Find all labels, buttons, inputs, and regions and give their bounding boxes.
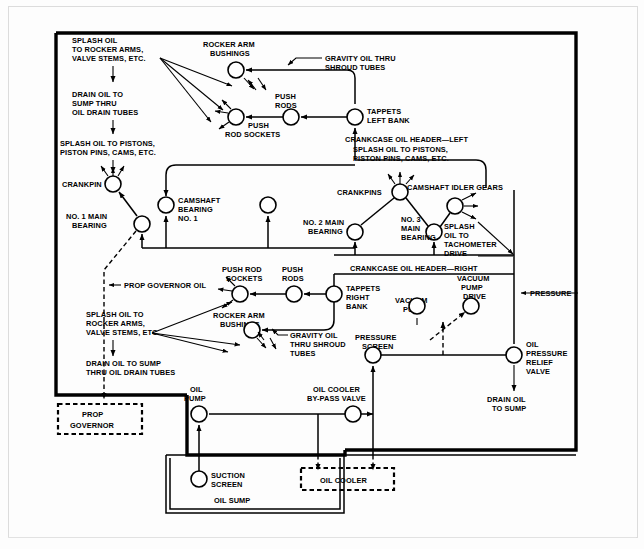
- svg-text:TUBES: TUBES: [290, 349, 316, 358]
- label-drain-oil-to-sump: DRAIN OIL TO SUMP: [487, 395, 526, 413]
- label-crankcase-header-left: CRANKCASE OIL HEADER—LEFT: [345, 135, 468, 144]
- node-rocker-arm-bushings-low: [244, 322, 260, 338]
- label-oil-sump: OIL SUMP: [214, 496, 250, 505]
- node-push-rod-sockets-mid: [232, 286, 248, 302]
- node-rocker-arm-bushings-top: [228, 62, 244, 78]
- svg-text:NO. 1: NO. 1: [178, 214, 198, 223]
- svg-text:NO. 3: NO. 3: [401, 215, 421, 224]
- svg-text:RIGHT: RIGHT: [346, 293, 370, 302]
- pipe-to-camshaft-bearing-1: [166, 165, 176, 196]
- svg-text:RELIEF: RELIEF: [526, 358, 553, 367]
- svg-text:ROD SOCKETS: ROD SOCKETS: [225, 130, 280, 139]
- flow-main2-to-crankpins: [361, 198, 394, 225]
- svg-text:OIL: OIL: [190, 385, 203, 394]
- node-camshaft-bearing-no1: [158, 197, 174, 213]
- label-no1-main-bearing: NO. 1 MAIN BEARING: [66, 212, 107, 230]
- leader-tach-diagonal: [478, 222, 513, 254]
- node-tappets-right-bank: [326, 286, 342, 302]
- svg-text:PUSH: PUSH: [248, 121, 269, 130]
- svg-text:ROCKER ARM: ROCKER ARM: [203, 40, 255, 49]
- label-splash-oil-tachometer: SPLASH OIL TO TACHOMETER DRIVE: [444, 222, 497, 258]
- svg-text:ROCKER ARMS,: ROCKER ARMS,: [86, 319, 145, 328]
- splash-socket-top-a: [222, 100, 231, 109]
- node-oil-cooler-bypass-valve: [345, 406, 361, 422]
- label-vacuum-pump-drive: VACUUM PUMP DRIVE: [457, 274, 490, 301]
- label-oil-cooler-bypass-valve: OIL COOLER BY-PASS VALVE: [307, 385, 366, 403]
- svg-text:SPLASH OIL TO PISTONS,: SPLASH OIL TO PISTONS,: [353, 145, 448, 154]
- svg-text:SPLASH OIL: SPLASH OIL: [72, 36, 118, 45]
- label-splash-oil-pistons-left: SPLASH OIL TO PISTONS, PISTON PINS, CAMS…: [60, 139, 156, 157]
- svg-text:NO. 1 MAIN: NO. 1 MAIN: [66, 212, 107, 221]
- node-header-riser-left: [260, 197, 276, 213]
- splash-bushing-top-a: [244, 78, 254, 89]
- label-prop-governor-oil: PROP GOVERNOR OIL: [124, 281, 206, 290]
- leader-gravity-oil-top: [288, 58, 322, 65]
- svg-text:VALVE: VALVE: [526, 367, 550, 376]
- svg-text:PRESSURE: PRESSURE: [526, 349, 567, 358]
- label-oil-cooler: OIL COOLER: [320, 476, 367, 485]
- svg-text:PRESSURE: PRESSURE: [355, 333, 396, 342]
- svg-text:DRAIN OIL TO: DRAIN OIL TO: [72, 90, 123, 99]
- node-vacuum-pump: [409, 298, 425, 314]
- label-oil-pump: OIL PUMP: [184, 385, 206, 403]
- svg-text:PUSH: PUSH: [282, 265, 303, 274]
- label-suction-screen: SUCTION SCREEN: [211, 471, 245, 489]
- label-prop-governor: PROP GOVERNOR: [70, 410, 114, 430]
- svg-text:BUSHINGS: BUSHINGS: [210, 49, 250, 58]
- splash-crankpins-a: [388, 174, 395, 184]
- flow-tappets-to-bushings-low: [262, 302, 334, 330]
- svg-text:DRIVE: DRIVE: [444, 249, 467, 258]
- svg-text:VALVE STEMS, ETC.: VALVE STEMS, ETC.: [86, 328, 160, 337]
- label-splash-oil-rocker-left: SPLASH OIL TO ROCKER ARMS, VALVE STEMS, …: [72, 36, 146, 63]
- label-push-rods-top: PUSH RODS: [275, 92, 297, 110]
- label-crankpin: CRANKPIN: [62, 180, 102, 189]
- svg-text:SPLASH OIL TO: SPLASH OIL TO: [86, 310, 144, 319]
- splash-socket-top-b: [215, 111, 228, 113]
- node-crankpin: [105, 176, 121, 192]
- splash-bushing-top-c: [258, 78, 266, 90]
- svg-text:NO. 2 MAIN: NO. 2 MAIN: [303, 218, 344, 227]
- lubrication-system-diagram: SPLASH OIL TO ROCKER ARMS, VALVE STEMS, …: [0, 0, 644, 549]
- svg-text:SUMP THRU: SUMP THRU: [72, 99, 117, 108]
- splash-bushing-low-b: [258, 332, 264, 340]
- label-crankcase-header-right: CRANKCASE OIL HEADER—RIGHT: [350, 264, 478, 273]
- label-splash-oil-rocker-low: SPLASH OIL TO ROCKER ARMS, VALVE STEMS, …: [86, 310, 160, 337]
- svg-text:TAPPETS: TAPPETS: [346, 284, 380, 293]
- svg-text:PISTON PINS, CAMS, ETC.: PISTON PINS, CAMS, ETC.: [60, 148, 156, 157]
- svg-text:RODS: RODS: [282, 274, 304, 283]
- label-camshaft-bearing-no1: CAMSHAFT BEARING NO. 1: [178, 196, 221, 223]
- node-crankpins: [392, 184, 408, 200]
- svg-text:OIL COOLER: OIL COOLER: [313, 385, 360, 394]
- label-rocker-arm-bushings-top: ROCKER ARM BUSHINGS: [203, 40, 255, 58]
- pointer-splash-to-sockets-a: [160, 58, 223, 110]
- svg-text:CAMSHAFT: CAMSHAFT: [178, 196, 221, 205]
- svg-text:SUCTION: SUCTION: [211, 471, 245, 480]
- svg-text:BANK: BANK: [346, 302, 368, 311]
- splash-bushing-low-a: [257, 338, 266, 348]
- node-vacuum-pump-drive: [463, 298, 479, 314]
- splash-bushing-low-c: [270, 338, 276, 349]
- svg-text:LEFT BANK: LEFT BANK: [367, 116, 410, 125]
- svg-text:PISTON PINS, CAMS, ETC.: PISTON PINS, CAMS, ETC.: [353, 154, 449, 163]
- svg-text:BEARING: BEARING: [308, 227, 343, 236]
- svg-text:GOVERNOR: GOVERNOR: [70, 421, 114, 430]
- node-suction-screen: [191, 471, 207, 487]
- line-vacuum-pump-drive: [430, 312, 465, 340]
- label-tappets-left-bank: TAPPETS LEFT BANK: [367, 107, 410, 125]
- splash-bushing-top-b: [248, 80, 256, 90]
- node-oil-pump: [191, 406, 207, 422]
- svg-text:BEARING: BEARING: [401, 233, 436, 242]
- svg-text:BEARING: BEARING: [178, 205, 213, 214]
- splash-socket-top-c: [219, 122, 229, 129]
- flow-tappets-to-bushings-left: [246, 70, 355, 104]
- svg-text:PUMP: PUMP: [461, 283, 483, 292]
- label-push-rod-sockets-mid: PUSH ROD SOCKETS: [222, 265, 262, 283]
- svg-text:THRU SHROUD: THRU SHROUD: [290, 340, 346, 349]
- label-drain-oil-sump-low: DRAIN OIL TO SUMP THRU OIL DRAIN TUBES: [86, 359, 175, 377]
- svg-text:SOCKETS: SOCKETS: [226, 274, 262, 283]
- svg-text:GRAVITY OIL: GRAVITY OIL: [290, 331, 338, 340]
- flow-main1-to-crankpin: [119, 192, 137, 216]
- svg-text:VALVE STEMS, ETC.: VALVE STEMS, ETC.: [72, 54, 146, 63]
- svg-text:VACUUM: VACUUM: [457, 274, 490, 283]
- node-no2-main-bearing: [347, 224, 363, 240]
